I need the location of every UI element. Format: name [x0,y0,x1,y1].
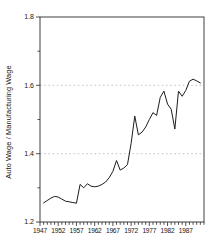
y-axis-title: Auto Wage / Manufacturing Wage [4,65,13,178]
x-tick-label: 1982 [161,227,175,234]
x-tick-label: 1957 [70,227,84,234]
y-tick-label: 1.6 [24,82,34,89]
y-tick-label: 1.8 [24,13,34,20]
y-tick-label: 1.4 [24,150,34,157]
data-line-wage-ratio [44,79,201,203]
x-tick-label: 1947 [33,227,47,234]
x-tick-label: 1952 [51,227,65,234]
y-tick-label: 1.2 [24,218,34,225]
x-tick-label: 1977 [142,227,156,234]
wage-ratio-line-chart: Auto Wage / Manufacturing Wage 1.21.41.6… [0,0,216,247]
x-tick-label: 1962 [88,227,102,234]
plot-frame [40,17,204,222]
x-tick-label: 1972 [124,227,138,234]
x-tick-label: 1967 [106,227,120,234]
chart-container: Auto Wage / Manufacturing Wage 1.21.41.6… [0,0,216,247]
x-tick-label: 1987 [179,227,193,234]
